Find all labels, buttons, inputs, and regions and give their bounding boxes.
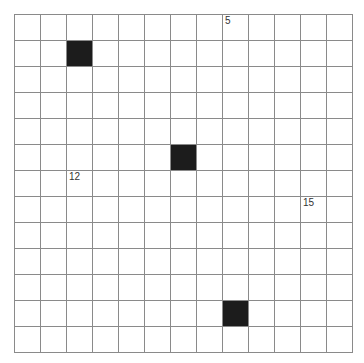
grid-cell[interactable] bbox=[249, 249, 275, 275]
grid-cell[interactable] bbox=[327, 171, 353, 197]
grid-cell[interactable] bbox=[197, 119, 223, 145]
grid-cell[interactable] bbox=[15, 145, 41, 171]
grid-cell[interactable] bbox=[301, 93, 327, 119]
grid-cell[interactable] bbox=[67, 15, 93, 41]
grid-cell[interactable] bbox=[145, 249, 171, 275]
grid-cell[interactable] bbox=[171, 67, 197, 93]
grid-cell[interactable] bbox=[67, 93, 93, 119]
grid-cell[interactable] bbox=[249, 93, 275, 119]
grid-cell[interactable] bbox=[197, 171, 223, 197]
grid-cell[interactable] bbox=[275, 249, 301, 275]
grid-cell[interactable] bbox=[301, 41, 327, 67]
grid-cell[interactable] bbox=[327, 223, 353, 249]
grid-cell[interactable] bbox=[171, 119, 197, 145]
grid-cell[interactable] bbox=[119, 249, 145, 275]
grid-cell[interactable] bbox=[197, 275, 223, 301]
grid-cell[interactable] bbox=[301, 275, 327, 301]
grid-cell[interactable] bbox=[301, 223, 327, 249]
grid-cell[interactable] bbox=[223, 223, 249, 249]
grid-cell[interactable] bbox=[301, 119, 327, 145]
grid-cell[interactable] bbox=[93, 119, 119, 145]
grid-cell[interactable] bbox=[145, 223, 171, 249]
grid-cell[interactable] bbox=[67, 327, 93, 353]
grid-cell[interactable] bbox=[327, 41, 353, 67]
grid-cell[interactable] bbox=[197, 41, 223, 67]
grid-cell[interactable] bbox=[223, 119, 249, 145]
grid-cell[interactable] bbox=[15, 171, 41, 197]
grid-cell[interactable] bbox=[327, 145, 353, 171]
grid-cell[interactable] bbox=[15, 327, 41, 353]
grid-cell[interactable] bbox=[197, 15, 223, 41]
grid-cell[interactable] bbox=[171, 249, 197, 275]
grid-cell[interactable] bbox=[223, 249, 249, 275]
grid-cell[interactable] bbox=[93, 93, 119, 119]
grid-cell[interactable] bbox=[93, 223, 119, 249]
grid-cell[interactable] bbox=[223, 93, 249, 119]
grid-cell[interactable] bbox=[249, 15, 275, 41]
grid-cell[interactable] bbox=[249, 119, 275, 145]
grid-cell[interactable] bbox=[249, 275, 275, 301]
grid-cell[interactable] bbox=[275, 93, 301, 119]
grid-cell[interactable] bbox=[93, 41, 119, 67]
grid-cell[interactable] bbox=[15, 67, 41, 93]
grid-cell[interactable] bbox=[301, 249, 327, 275]
grid-cell[interactable] bbox=[197, 67, 223, 93]
grid-cell[interactable] bbox=[145, 41, 171, 67]
grid-cell[interactable] bbox=[67, 145, 93, 171]
grid-cell[interactable] bbox=[249, 197, 275, 223]
grid-cell[interactable]: 5 bbox=[223, 15, 249, 41]
grid-cell[interactable] bbox=[223, 275, 249, 301]
grid-cell[interactable] bbox=[119, 145, 145, 171]
grid-cell[interactable] bbox=[223, 145, 249, 171]
grid-cell[interactable] bbox=[15, 93, 41, 119]
grid-cell[interactable] bbox=[41, 301, 67, 327]
grid-cell[interactable] bbox=[145, 171, 171, 197]
grid-cell[interactable] bbox=[327, 119, 353, 145]
grid-cell[interactable] bbox=[67, 301, 93, 327]
grid-cell[interactable] bbox=[93, 197, 119, 223]
grid-cell[interactable] bbox=[145, 119, 171, 145]
grid-cell[interactable] bbox=[275, 119, 301, 145]
grid-cell[interactable] bbox=[93, 249, 119, 275]
grid-cell[interactable] bbox=[93, 327, 119, 353]
grid-cell[interactable] bbox=[197, 93, 223, 119]
grid-cell[interactable] bbox=[67, 275, 93, 301]
grid-cell[interactable] bbox=[93, 145, 119, 171]
grid-cell[interactable] bbox=[223, 327, 249, 353]
grid-cell[interactable] bbox=[119, 171, 145, 197]
grid-cell[interactable] bbox=[275, 145, 301, 171]
grid-cell[interactable] bbox=[301, 15, 327, 41]
grid-cell[interactable] bbox=[301, 67, 327, 93]
grid-cell[interactable] bbox=[171, 41, 197, 67]
grid-cell[interactable] bbox=[301, 171, 327, 197]
grid-cell[interactable] bbox=[67, 119, 93, 145]
grid-cell[interactable] bbox=[171, 223, 197, 249]
grid-cell[interactable] bbox=[41, 41, 67, 67]
grid-cell[interactable] bbox=[275, 67, 301, 93]
grid-cell[interactable] bbox=[93, 171, 119, 197]
grid-cell[interactable] bbox=[41, 145, 67, 171]
grid-cell[interactable] bbox=[67, 67, 93, 93]
grid-cell[interactable] bbox=[41, 275, 67, 301]
grid-cell[interactable] bbox=[275, 275, 301, 301]
grid-cell[interactable] bbox=[119, 301, 145, 327]
grid-cell[interactable] bbox=[93, 301, 119, 327]
grid-cell[interactable] bbox=[327, 15, 353, 41]
grid-cell[interactable] bbox=[41, 171, 67, 197]
grid-cell[interactable] bbox=[327, 301, 353, 327]
grid-cell[interactable] bbox=[119, 327, 145, 353]
grid-cell[interactable] bbox=[93, 15, 119, 41]
grid-cell[interactable] bbox=[119, 41, 145, 67]
grid-cell[interactable] bbox=[249, 67, 275, 93]
grid-cell[interactable] bbox=[67, 249, 93, 275]
grid-cell[interactable] bbox=[41, 67, 67, 93]
grid-cell[interactable] bbox=[67, 197, 93, 223]
grid-cell[interactable] bbox=[223, 67, 249, 93]
grid-cell[interactable] bbox=[171, 15, 197, 41]
grid-cell[interactable] bbox=[275, 301, 301, 327]
grid-cell[interactable] bbox=[15, 275, 41, 301]
grid-cell[interactable] bbox=[15, 301, 41, 327]
grid-cell[interactable] bbox=[327, 249, 353, 275]
grid-cell[interactable] bbox=[119, 15, 145, 41]
grid-cell[interactable] bbox=[171, 275, 197, 301]
